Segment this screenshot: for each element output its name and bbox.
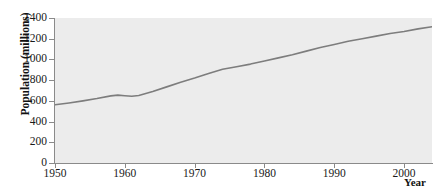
y-tick-mark — [49, 80, 54, 81]
x-axis-title: Year — [404, 176, 426, 188]
y-tick-mark — [49, 59, 54, 60]
population-line-chart: 0200400600800100012001400 19501960197019… — [0, 0, 446, 191]
y-tick-label: 800 — [30, 74, 47, 85]
y-tick-mark — [49, 18, 54, 19]
x-axis-line — [54, 163, 433, 164]
y-axis-title: Population (millions) — [19, 0, 31, 139]
y-tick-mark — [49, 163, 54, 164]
x-tick-label: 1960 — [113, 167, 136, 179]
y-tick-label: 200 — [30, 136, 47, 147]
plot-panel — [55, 18, 432, 163]
population-line — [55, 27, 432, 105]
x-tick-label: 1950 — [44, 167, 67, 179]
y-axis-line — [54, 18, 55, 164]
y-tick-mark — [49, 101, 54, 102]
plot-canvas — [55, 18, 432, 163]
y-tick-mark — [49, 142, 54, 143]
y-tick-mark — [49, 122, 54, 123]
y-tick-label: 400 — [30, 116, 47, 127]
y-tick-label: 600 — [30, 95, 47, 106]
x-tick-label: 1980 — [253, 167, 276, 179]
x-tick-label: 1990 — [323, 167, 346, 179]
y-tick-mark — [49, 39, 54, 40]
x-tick-label: 1970 — [183, 167, 206, 179]
